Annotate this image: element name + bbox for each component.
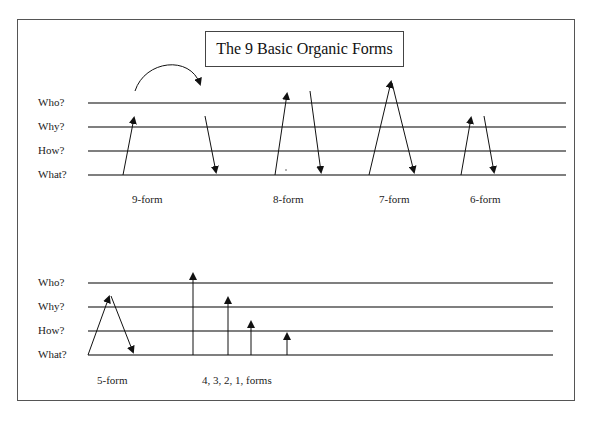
lower-level-lines bbox=[88, 283, 553, 355]
diagram-lines bbox=[0, 0, 594, 430]
form-5-arrows bbox=[88, 296, 133, 355]
stray-dot bbox=[285, 169, 287, 171]
form-7-arrows bbox=[369, 82, 414, 175]
form-9-arrows bbox=[123, 65, 216, 175]
form-6-arrows bbox=[461, 116, 494, 175]
upper-level-lines bbox=[88, 103, 566, 175]
form-4-3-2-1-arrows bbox=[193, 274, 287, 355]
